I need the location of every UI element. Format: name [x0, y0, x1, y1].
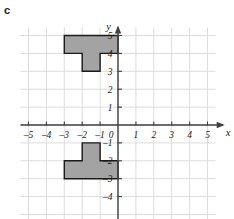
axis-tick-labels: –5–4–3–2–11234554321–1–2–3–40yx	[23, 21, 231, 202]
x-tick-label: –2	[76, 130, 87, 140]
y-axis-arrow	[115, 25, 121, 33]
x-tick-label: 3	[168, 130, 174, 140]
y-tick-label: –3	[102, 174, 113, 184]
x-tick-label: 1	[134, 130, 139, 140]
x-tick-label: –4	[41, 130, 52, 140]
y-tick-label: –2	[102, 156, 113, 166]
y-axis-label: y	[105, 21, 111, 32]
y-tick-label: –1	[102, 138, 113, 148]
y-tick-label: –4	[102, 192, 113, 202]
x-tick-label: –3	[59, 130, 70, 140]
x-tick-label: 2	[151, 130, 156, 140]
axes-layer	[20, 25, 224, 219]
x-tick-label: 5	[205, 130, 210, 140]
origin-label: 0	[109, 130, 114, 140]
y-tick-label: 2	[108, 85, 113, 95]
y-tick-label: 3	[107, 67, 113, 77]
y-tick-label: 1	[108, 103, 113, 113]
coordinate-plane: –5–4–3–2–11234554321–1–2–3–40yx	[0, 0, 234, 219]
figure-container: c –5–4–3–2–11234554321–1–2–3–40yx	[0, 0, 234, 219]
x-axis-arrow	[217, 122, 225, 128]
y-tick-label: 4	[108, 49, 113, 59]
x-tick-label: –5	[23, 130, 34, 140]
x-axis-label: x	[225, 127, 231, 138]
x-tick-label: 4	[187, 130, 192, 140]
